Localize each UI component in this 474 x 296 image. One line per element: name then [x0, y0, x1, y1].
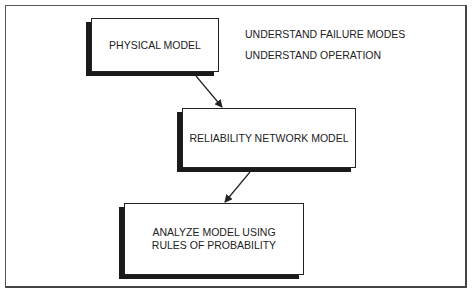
connector-arrows — [0, 0, 474, 296]
arrow-network-to-analyze — [225, 172, 250, 202]
arrow-physical-to-network — [196, 76, 222, 107]
